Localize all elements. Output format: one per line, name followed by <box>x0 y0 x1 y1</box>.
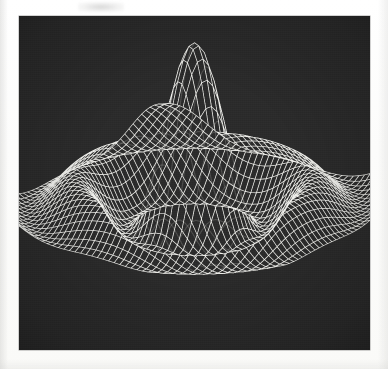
surface-plot-frame <box>19 16 370 350</box>
wireframe-surface-canvas <box>19 16 370 350</box>
figure-root: 3D wireframe mesh surface plot z = sin(r… <box>0 0 388 369</box>
